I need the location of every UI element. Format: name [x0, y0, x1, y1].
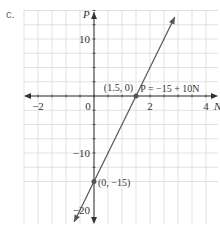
y-tick-label: −10	[73, 147, 91, 159]
x-tick-label: 2	[147, 100, 153, 112]
data-point	[134, 94, 139, 99]
x-axis-label: N	[213, 100, 220, 112]
arrow-left-icon	[24, 93, 31, 99]
point-label: (0, −15)	[98, 177, 130, 189]
x-tick-label: −2	[32, 100, 44, 112]
x-tick-label: 0	[85, 100, 91, 112]
series-line	[74, 17, 175, 222]
axes	[24, 0, 218, 224]
arrow-up-icon	[91, 12, 97, 19]
grid-lines	[24, 10, 218, 224]
y-tick-label: 10	[79, 33, 91, 45]
chart: −202410−10−20NP (1.5, 0)(0, −15) P = −15…	[0, 0, 220, 228]
y-axis-label: P	[82, 8, 90, 20]
annotations: P = −15 + 10N	[140, 83, 199, 94]
arrow-right-icon	[211, 93, 218, 99]
series-line	[74, 17, 175, 222]
arrow-down-icon	[91, 217, 97, 224]
equation-label: P = −15 + 10N	[140, 83, 199, 94]
x-tick-label: 4	[203, 100, 209, 112]
point-label: (1.5, 0)	[104, 82, 133, 94]
data-point	[92, 179, 97, 184]
